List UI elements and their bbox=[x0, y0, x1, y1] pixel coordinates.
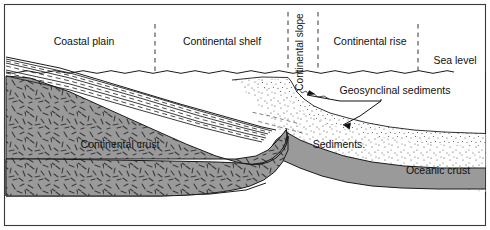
unit-label-geosynclinal-sediments: Geosynclinal sediments bbox=[340, 84, 451, 96]
zone-label-sea-level: Sea level bbox=[433, 54, 476, 66]
zone-label-continental-rise: Continental rise bbox=[334, 35, 407, 47]
unit-label-sediments: Sediments. bbox=[313, 138, 366, 150]
cross-section-figure: Coastal plain Continental shelf Continen… bbox=[0, 0, 490, 230]
zone-label-continental-slope: Continental slope bbox=[294, 13, 305, 91]
zone-label-continental-shelf: Continental shelf bbox=[183, 35, 261, 47]
zone-label-coastal-plain: Coastal plain bbox=[54, 35, 115, 47]
cross-section-svg: Coastal plain Continental shelf Continen… bbox=[0, 0, 490, 230]
unit-label-continental-crust: Continental crust bbox=[81, 138, 160, 150]
unit-label-oceanic-crust: Oceanic crust bbox=[406, 164, 470, 176]
